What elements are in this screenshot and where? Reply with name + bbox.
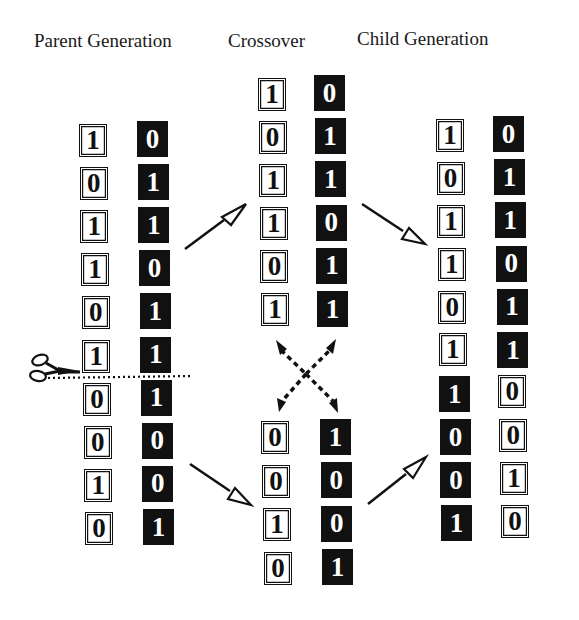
arrow-parent-to-crossover-bottom-icon (190, 464, 251, 505)
cut-line (48, 376, 192, 378)
arrow-crossover-bottom-to-child-icon (368, 457, 426, 504)
connector-overlay (0, 0, 579, 620)
arrow-parent-to-crossover-top-icon (185, 204, 246, 249)
arrow-crossover-top-to-child-icon (362, 204, 425, 244)
dashed-cross-arrows-icon (281, 349, 333, 401)
